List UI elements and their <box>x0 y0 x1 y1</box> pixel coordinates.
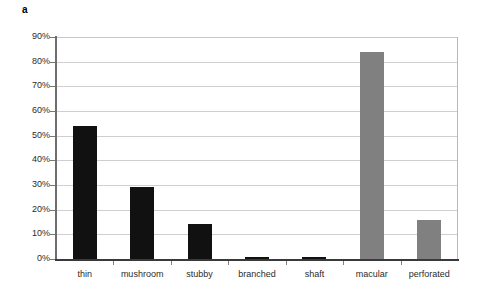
x-tick-mark-3 <box>228 261 229 265</box>
x-tick-mark-5 <box>343 261 344 265</box>
x-tick-mark-4 <box>286 261 287 265</box>
y-tick-label-70: 70% <box>6 81 50 90</box>
x-label-branched: branched <box>228 269 285 280</box>
y-tick-label-30: 30% <box>6 180 50 189</box>
y-tick-mark-50 <box>50 136 55 137</box>
y-tick-mark-60 <box>50 111 55 112</box>
x-axis-line <box>55 259 459 261</box>
y-tick-label-50: 50% <box>6 131 50 140</box>
x-label-mushroom: mushroom <box>113 269 170 280</box>
x-label-macular: macular <box>343 269 400 280</box>
x-label-perforated: perforated <box>401 269 458 280</box>
y-tick-mark-0 <box>50 259 55 260</box>
x-tick-mark-2 <box>171 261 172 265</box>
y-tick-mark-20 <box>50 210 55 211</box>
y-tick-label-10: 10% <box>6 229 50 238</box>
y-tick-mark-30 <box>50 185 55 186</box>
y-tick-label-60: 60% <box>6 106 50 115</box>
y-tick-mark-40 <box>50 160 55 161</box>
y-tick-mark-10 <box>50 234 55 235</box>
y-tick-mark-80 <box>50 62 55 63</box>
bar-perforated[interactable] <box>417 220 441 259</box>
bar-stubby[interactable] <box>188 224 212 259</box>
y-axis-tick-labels: 90% 80% 70% 60% 50% 40% 30% 20% 10% 0% <box>0 0 50 303</box>
bar-mushroom[interactable] <box>130 187 154 259</box>
figure-panel-a: a 90% 80% 70% 60% 50% <box>0 0 481 303</box>
y-tick-label-20: 20% <box>6 205 50 214</box>
x-tick-mark-6 <box>401 261 402 265</box>
x-label-thin: thin <box>56 269 113 280</box>
bar-thin[interactable] <box>73 126 97 259</box>
y-tick-mark-90 <box>50 37 55 38</box>
bar-series <box>56 37 458 259</box>
x-label-shaft: shaft <box>286 269 343 280</box>
bar-branched[interactable] <box>245 257 269 259</box>
y-tick-label-0: 0% <box>6 254 50 263</box>
y-tick-label-90: 90% <box>6 32 50 41</box>
x-tick-mark-1 <box>113 261 114 265</box>
y-tick-label-80: 80% <box>6 57 50 66</box>
y-tick-label-40: 40% <box>6 155 50 164</box>
bar-shaft[interactable] <box>302 257 326 259</box>
x-label-stubby: stubby <box>171 269 228 280</box>
bar-macular[interactable] <box>360 52 384 259</box>
y-tick-mark-70 <box>50 86 55 87</box>
